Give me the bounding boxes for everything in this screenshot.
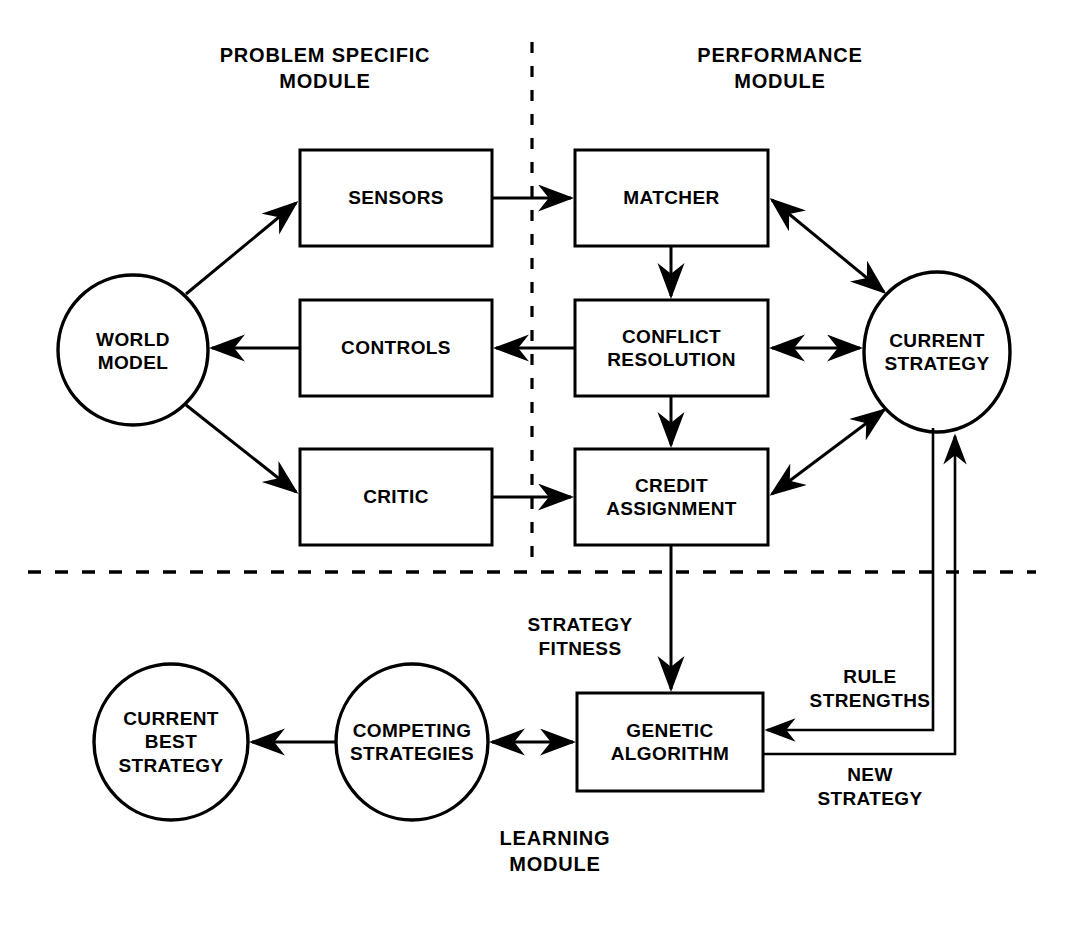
credit-assignment-box (575, 449, 768, 545)
current-best-strategy-circle (94, 664, 248, 820)
controls-box (300, 300, 492, 396)
critic-box (300, 449, 492, 545)
edge-world-model-to-critic (186, 405, 296, 492)
edge-matcher-current-strategy (772, 200, 884, 292)
edge-new-strategy (763, 436, 955, 754)
edge-credit-assignment-current-strategy (772, 410, 884, 494)
current-strategy-circle (864, 272, 1010, 432)
diagram-graphics (0, 0, 1066, 934)
edge-rule-strengths (767, 428, 933, 730)
genetic-algorithm-box (577, 693, 763, 791)
diagram-canvas: PROBLEM SPECIFIC MODULE PERFORMANCE MODU… (0, 0, 1066, 934)
matcher-box (575, 150, 768, 246)
sensors-box (300, 150, 492, 246)
conflict-resolution-box (575, 300, 768, 396)
competing-strategies-circle (336, 664, 488, 820)
edge-world-model-to-sensors (186, 203, 296, 294)
world-model-circle (58, 275, 208, 425)
